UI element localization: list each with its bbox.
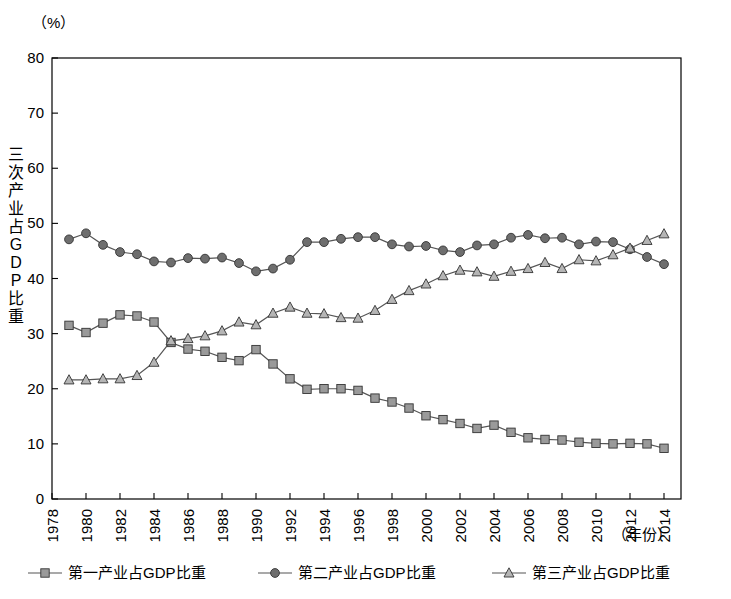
legend-label: 第三产业占GDP比重: [532, 564, 670, 581]
series-2: [65, 229, 669, 276]
marker-triangle: [285, 302, 295, 311]
marker-square: [643, 440, 651, 448]
legend-item-1[interactable]: 第一产业占GDP比重: [28, 564, 206, 581]
marker-square: [320, 385, 328, 393]
line-chart: 0102030405060708019781980198219841986198…: [0, 0, 731, 599]
marker-square: [405, 404, 413, 412]
y-tick-label: 20: [27, 380, 44, 397]
marker-square: [235, 356, 243, 364]
marker-circle: [371, 233, 380, 242]
marker-circle: [286, 255, 295, 264]
marker-square: [473, 424, 481, 432]
marker-square: [303, 385, 311, 393]
y-tick-label: 10: [27, 435, 44, 452]
marker-square: [592, 439, 600, 447]
marker-square: [456, 419, 464, 427]
marker-circle: [490, 240, 499, 249]
y-tick-label: 0: [36, 490, 44, 507]
marker-square: [575, 438, 583, 446]
y-axis-label-char: 产: [8, 182, 24, 199]
x-tick-label: 1998: [384, 509, 401, 542]
marker-triangle: [234, 317, 244, 326]
marker-square: [82, 328, 90, 336]
marker-triangle: [302, 308, 312, 317]
marker-triangle: [268, 308, 278, 317]
marker-square: [41, 569, 49, 577]
x-axis-label: （年份）: [612, 526, 672, 543]
legend-label: 第二产业占GDP比重: [298, 564, 436, 581]
marker-triangle: [659, 229, 669, 238]
marker-circle: [303, 238, 312, 247]
marker-circle: [167, 258, 176, 267]
marker-circle: [82, 229, 91, 238]
y-axis-label-char: 重: [8, 308, 24, 325]
marker-circle: [65, 235, 74, 244]
marker-triangle: [523, 263, 533, 272]
marker-square: [490, 421, 498, 429]
marker-square: [626, 439, 634, 447]
marker-square: [558, 436, 566, 444]
plot-frame: [52, 58, 681, 499]
marker-square: [337, 385, 345, 393]
y-tick-label: 60: [27, 159, 44, 176]
x-tick-label: 1996: [350, 509, 367, 542]
x-tick-label: 2006: [520, 509, 537, 542]
marker-circle: [252, 267, 261, 276]
marker-circle: [201, 254, 210, 263]
y-axis-label-char: 次: [8, 164, 24, 181]
marker-square: [371, 394, 379, 402]
marker-triangle: [608, 250, 618, 259]
y-tick-label: 70: [27, 104, 44, 121]
marker-triangle: [421, 279, 431, 288]
marker-square: [354, 386, 362, 394]
marker-circle: [541, 234, 550, 243]
y-axis-label-char: 比: [8, 290, 24, 307]
marker-circle: [99, 240, 108, 249]
legend-item-2[interactable]: 第二产业占GDP比重: [258, 564, 436, 581]
marker-circle: [271, 569, 280, 578]
y-tick-label: 40: [27, 270, 44, 287]
y-axis-label-char: 占: [8, 218, 24, 235]
marker-triangle: [642, 235, 652, 244]
marker-square: [286, 375, 294, 383]
marker-circle: [337, 234, 346, 243]
marker-circle: [524, 231, 533, 240]
x-tick-label: 2002: [452, 509, 469, 542]
marker-square: [541, 435, 549, 443]
x-tick-label: 1990: [248, 509, 265, 542]
marker-triangle: [574, 255, 584, 264]
marker-circle: [643, 253, 652, 262]
y-tick-label: 50: [27, 214, 44, 231]
marker-square: [184, 345, 192, 353]
marker-triangle: [455, 265, 465, 274]
marker-square: [116, 311, 124, 319]
marker-square: [150, 318, 158, 326]
chart-container: 0102030405060708019781980198219841986198…: [0, 0, 731, 599]
marker-circle: [575, 240, 584, 249]
x-tick-label: 1980: [78, 509, 95, 542]
marker-circle: [133, 250, 142, 259]
y-axis-label-char: G: [10, 236, 22, 253]
x-tick-label: 2010: [588, 509, 605, 542]
marker-triangle: [540, 257, 550, 266]
marker-square: [218, 353, 226, 361]
marker-square: [609, 440, 617, 448]
x-tick-label: 2008: [554, 509, 571, 542]
legend-label: 第一产业占GDP比重: [68, 564, 206, 581]
legend-item-3[interactable]: 第三产业占GDP比重: [492, 564, 670, 581]
x-tick-label: 1994: [316, 509, 333, 542]
marker-circle: [439, 246, 448, 255]
marker-circle: [592, 237, 601, 246]
x-tick-label: 1988: [214, 509, 231, 542]
x-tick-label: 1986: [180, 509, 197, 542]
marker-triangle: [557, 263, 567, 272]
marker-square: [252, 345, 260, 353]
marker-circle: [507, 233, 516, 242]
marker-triangle: [217, 326, 227, 335]
series-1: [65, 311, 668, 453]
x-tick-label: 2004: [486, 509, 503, 542]
marker-circle: [558, 233, 567, 242]
marker-square: [388, 398, 396, 406]
marker-circle: [235, 259, 244, 268]
marker-circle: [150, 257, 159, 266]
